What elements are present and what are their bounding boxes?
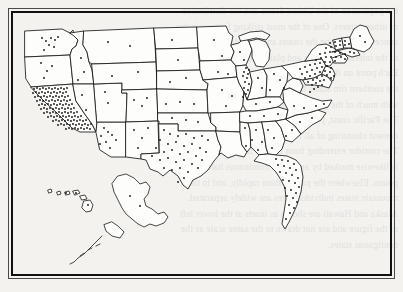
figure-frame-outer — [8, 8, 395, 279]
figure-frame-inner — [11, 11, 392, 276]
figure-root: the population of the United States and … — [0, 0, 403, 292]
